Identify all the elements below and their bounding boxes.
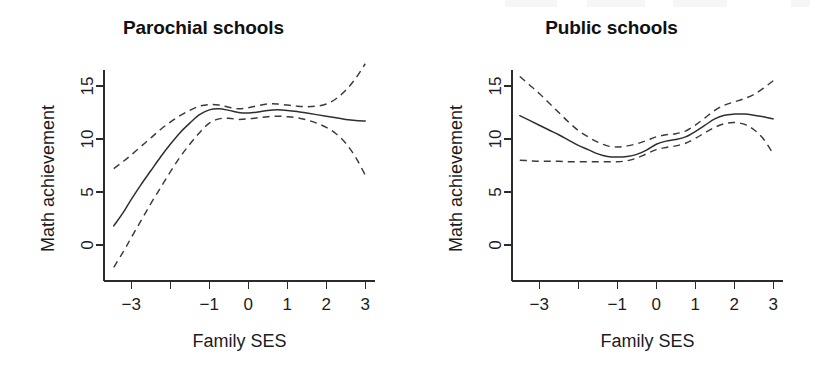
x-axis-title: Family SES	[192, 331, 286, 351]
y-tick-label: 0	[486, 240, 505, 249]
y-axis-title: Math achievement	[446, 105, 466, 252]
x-tick-label: −3	[530, 295, 549, 314]
y-tick-label: 15	[486, 77, 505, 96]
x-tick-label: 0	[652, 295, 661, 314]
plot-parochial: −3−10123051015Family SESMath achievement	[0, 0, 407, 383]
x-tick-label: 2	[730, 295, 739, 314]
x-tick-label: 0	[244, 295, 253, 314]
curve-fit	[520, 114, 773, 157]
x-tick-label: 1	[691, 295, 700, 314]
curve-lower-confidence-band	[520, 123, 773, 162]
y-tick-label: 10	[78, 130, 97, 149]
x-tick-label: 3	[769, 295, 778, 314]
plot-public: −3−10123051015Family SESMath achievement	[408, 0, 815, 383]
figure-container: Parochial schools −3−10123051015Family S…	[0, 0, 815, 383]
x-axis-title: Family SES	[600, 331, 694, 351]
curve-upper-confidence-band	[520, 76, 773, 146]
y-tick-label: 10	[486, 130, 505, 149]
x-tick-label: 1	[283, 295, 292, 314]
y-tick-label: 15	[78, 77, 97, 96]
x-tick-label: −3	[122, 295, 141, 314]
x-tick-label: 2	[322, 295, 331, 314]
panel-parochial-schools: Parochial schools −3−10123051015Family S…	[0, 0, 407, 383]
y-tick-label: 0	[78, 240, 97, 249]
curve-fit	[114, 109, 366, 226]
x-tick-label: −1	[608, 295, 627, 314]
y-tick-label: 5	[486, 187, 505, 196]
x-tick-label: −1	[200, 295, 219, 314]
panel-public-schools: Public schools −3−10123051015Family SESM…	[408, 0, 815, 383]
x-tick-label: 3	[361, 295, 370, 314]
y-axis-title: Math achievement	[38, 105, 58, 252]
curve-lower-confidence-band	[114, 116, 366, 267]
y-tick-label: 5	[78, 187, 97, 196]
